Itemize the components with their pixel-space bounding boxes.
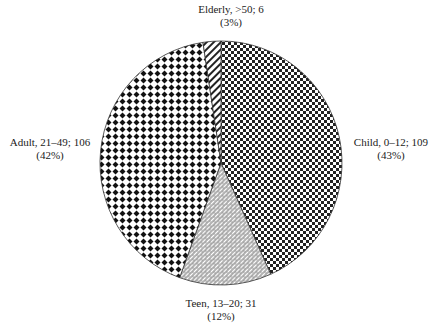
- label-teen-pct: (12%): [175, 310, 267, 323]
- label-child-pct: (43%): [345, 149, 437, 162]
- label-elderly: Elderly, >50; 6 (3%): [186, 3, 276, 29]
- label-elderly-name: Elderly, >50; 6: [186, 3, 276, 16]
- label-child-name: Child, 0–12; 109: [345, 136, 437, 149]
- label-adult-name: Adult, 21–49; 106: [0, 136, 100, 149]
- label-adult-pct: (42%): [0, 149, 100, 162]
- label-elderly-pct: (3%): [186, 16, 276, 29]
- label-teen: Teen, 13–20; 31 (12%): [175, 297, 267, 323]
- pie-slices: [100, 41, 342, 285]
- pie-chart: [0, 0, 437, 331]
- label-adult: Adult, 21–49; 106 (42%): [0, 136, 100, 162]
- label-teen-name: Teen, 13–20; 31: [175, 297, 267, 310]
- label-child: Child, 0–12; 109 (43%): [345, 136, 437, 162]
